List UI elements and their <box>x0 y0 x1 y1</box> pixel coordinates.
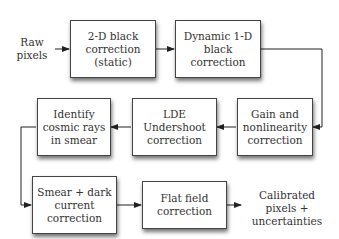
step-line: correction <box>37 212 111 225</box>
step-line: in smear <box>43 134 106 147</box>
output-label-calibrated-pixels: Calibrated pixels + uncertainties <box>244 189 330 228</box>
step-line: Gain and <box>243 108 307 121</box>
step-line: Flat field <box>157 192 212 205</box>
step-line: (static) <box>86 56 141 69</box>
step-line: 2-D black <box>86 30 141 43</box>
step-line: nonlinearity <box>243 121 307 134</box>
step-line: black <box>184 43 253 56</box>
step-line: correction <box>143 134 206 147</box>
step-line: Dynamic 1-D <box>184 30 253 43</box>
output-line: pixels + <box>244 202 330 215</box>
step-line: current <box>37 199 111 212</box>
step-2d-black-correction: 2-D black correction (static) <box>70 20 156 78</box>
step-line: correction <box>184 56 253 69</box>
step-line: Undershoot <box>143 121 206 134</box>
step-line: cosmic rays <box>43 121 106 134</box>
step-flat-field-correction: Flat field correction <box>142 181 227 229</box>
input-line: Raw <box>12 36 52 49</box>
output-line: Calibrated <box>244 189 330 202</box>
input-label-raw-pixels: Raw pixels <box>12 36 52 62</box>
input-line: pixels <box>12 49 52 62</box>
step-line: Smear + dark <box>37 186 111 199</box>
pipeline-diagram: Raw pixels 2-D black correction (static)… <box>0 0 339 239</box>
output-line: uncertainties <box>244 215 330 228</box>
step-line: Identify <box>43 108 106 121</box>
step-gain-nonlinearity-correction: Gain and nonlinearity correction <box>237 98 313 156</box>
step-line: LDE <box>143 108 206 121</box>
step-smear-dark-current-correction: Smear + dark current correction <box>32 176 117 234</box>
step-identify-cosmic-rays: Identify cosmic rays in smear <box>37 98 111 156</box>
step-dynamic-1d-black-correction: Dynamic 1-D black correction <box>175 20 261 78</box>
step-lde-undershoot-correction: LDE Undershoot correction <box>132 98 217 156</box>
step-line: correction <box>86 43 141 56</box>
step-line: correction <box>243 134 307 147</box>
step-line: correction <box>157 205 212 218</box>
